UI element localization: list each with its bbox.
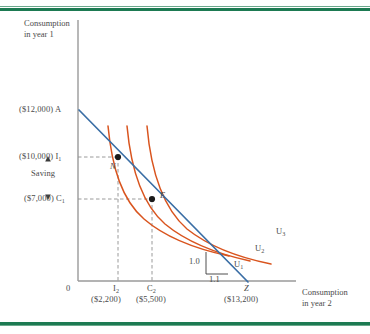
x-tick-sub-c2: 2 <box>153 287 156 294</box>
x-tick-label-z: Z <box>244 283 249 293</box>
x-axis-title-line1: Consumption <box>302 287 348 298</box>
y-tick-label-i1: ($10,000) I1 <box>19 151 62 162</box>
x-tick-symbol-c2: C <box>147 283 153 293</box>
x-tick-money-c2: ($5,500) <box>136 294 166 304</box>
y-tick-label-a: ($12,000) A <box>19 104 61 114</box>
curve-label-u2: U2 <box>255 243 264 254</box>
x-tick-money-i2: ($2,200) <box>91 294 121 304</box>
origin-label: 0 <box>66 283 70 293</box>
curve-sub-u2: 2 <box>261 247 264 254</box>
y-tick-sub-c1: 1 <box>62 197 65 204</box>
x-axis-title: Consumption in year 2 <box>302 287 348 308</box>
figure-container: Consumption in year 1 Consumption in yea… <box>0 0 370 334</box>
point-label-e: E <box>160 190 165 200</box>
slope-label-horizontal: 1.1 <box>209 274 220 284</box>
curve-label-u1: U1 <box>234 259 243 270</box>
indifference-curve-u2 <box>127 126 250 261</box>
y-axis-title-line2: in year 1 <box>24 29 70 40</box>
indifference-curve-u1 <box>108 126 229 256</box>
x-tick-money-z: ($13,200) <box>224 294 258 304</box>
curve-label-u3: U3 <box>276 226 285 237</box>
x-tick-sub-i2: 2 <box>116 287 119 294</box>
point-marker-n <box>115 154 121 160</box>
saving-label: Saving <box>31 168 55 178</box>
x-tick-label-i2: I2 <box>113 283 119 294</box>
y-axis-title-line1: Consumption <box>24 18 70 29</box>
y-tick-money-a: ($12,000) <box>19 104 53 114</box>
curve-sub-u3: 3 <box>282 230 285 237</box>
y-axis-title: Consumption in year 1 <box>24 18 70 39</box>
slope-label-vertical: 1.0 <box>189 256 200 266</box>
y-tick-sub-i1: 1 <box>58 155 61 162</box>
x-tick-label-c2: C2 <box>147 283 156 294</box>
point-label-n: N <box>110 161 116 171</box>
y-tick-money-c1: ($7,000) <box>24 193 54 203</box>
point-marker-e <box>149 196 155 202</box>
y-tick-symbol-a: A <box>55 104 61 114</box>
y-tick-symbol-c1: C <box>56 193 62 203</box>
curve-sub-u1: 1 <box>240 263 243 270</box>
x-axis-title-line2: in year 2 <box>302 298 348 309</box>
plot-svg <box>0 0 370 334</box>
y-tick-label-c1: ($7,000) C1 <box>24 193 65 204</box>
y-tick-money-i1: ($10,000) <box>19 151 53 161</box>
